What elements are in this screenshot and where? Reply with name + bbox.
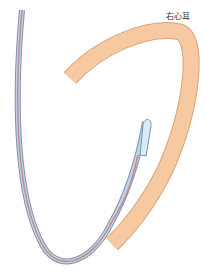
right-atrial-appendage-label: 右心耳 (166, 10, 190, 21)
diagram-svg (0, 0, 207, 274)
diagram-canvas: 右心耳 (0, 0, 207, 274)
right-atrial-appendage-band (70, 31, 191, 244)
